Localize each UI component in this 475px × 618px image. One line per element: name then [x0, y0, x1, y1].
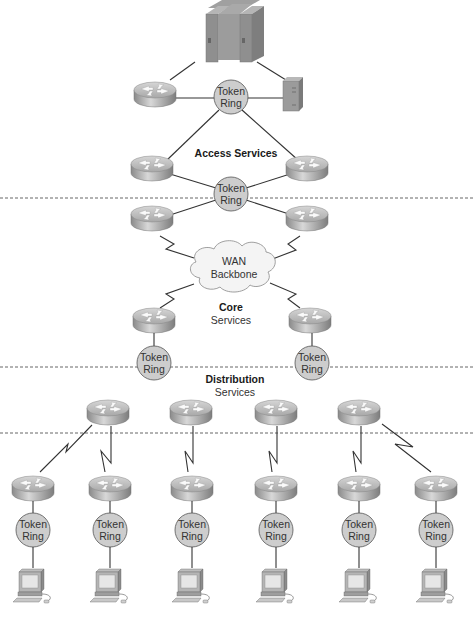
serial-links-distribution [40, 424, 431, 472]
router-icon [415, 476, 457, 501]
access-branch-2: Token Ring [89, 476, 131, 603]
router-icon [338, 400, 380, 425]
router-icon [131, 156, 173, 181]
svg-text:Token: Token [345, 518, 373, 530]
access-services-label: Access Services [195, 147, 278, 159]
svg-text:Token: Token [96, 518, 124, 530]
workstation-icon [90, 569, 127, 603]
svg-text:Token: Token [140, 351, 168, 363]
router-icon [131, 206, 173, 231]
token-ring-top: Token Ring [214, 80, 248, 114]
svg-text:Ring: Ring [143, 363, 165, 375]
router-icon [89, 476, 131, 501]
access-branch-4: Token Ring [255, 476, 297, 603]
workstation-icon [13, 569, 50, 603]
router-icon [255, 400, 297, 425]
access-branch-1: Token Ring [12, 476, 54, 603]
svg-text:Ring: Ring [99, 530, 121, 542]
router-icon [338, 476, 380, 501]
svg-text:Backbone: Backbone [211, 268, 258, 280]
workstation-icon [339, 569, 376, 603]
svg-text:Ring: Ring [348, 530, 370, 542]
mainframe-icon [206, 0, 264, 62]
token-ring-middle: Token Ring [214, 177, 248, 211]
svg-text:Token: Token [217, 182, 245, 194]
router-icon [170, 400, 212, 425]
cloud-icon: WAN Backbone [190, 241, 275, 292]
svg-text:Token: Token [422, 518, 450, 530]
network-diagram: Token Ring Access Services Token Ring WA… [0, 0, 475, 618]
svg-text:Ring: Ring [265, 530, 287, 542]
router-icon [255, 476, 297, 501]
distribution-label: Distribution [206, 373, 265, 385]
svg-text:WAN: WAN [222, 255, 246, 267]
token-ring-core-left: Token Ring [137, 346, 171, 380]
router-icon [133, 308, 175, 333]
router-icon [286, 206, 328, 231]
svg-text:Token: Token [178, 518, 206, 530]
router-icon [289, 308, 331, 333]
svg-text:Ring: Ring [220, 97, 242, 109]
router-icon [286, 156, 328, 181]
server-icon [283, 77, 303, 111]
distribution-sublabel: Services [215, 386, 255, 398]
svg-text:Token: Token [298, 351, 326, 363]
core-sublabel: Services [211, 314, 251, 326]
workstation-icon [256, 569, 293, 603]
core-label: Core [219, 301, 243, 313]
svg-text:Token: Token [19, 518, 47, 530]
access-branch-3: Token Ring [171, 476, 213, 603]
svg-text:Ring: Ring [181, 530, 203, 542]
svg-text:Ring: Ring [301, 363, 323, 375]
router-icon [134, 82, 176, 107]
svg-text:Ring: Ring [220, 194, 242, 206]
svg-text:Ring: Ring [425, 530, 447, 542]
workstation-icon [172, 569, 209, 603]
router-icon [87, 400, 129, 425]
router-icon [171, 476, 213, 501]
svg-text:Token: Token [262, 518, 290, 530]
access-branch-5: Token Ring [338, 476, 380, 603]
workstation-icon [416, 569, 453, 603]
router-icon [12, 476, 54, 501]
svg-text:Ring: Ring [22, 530, 44, 542]
token-ring-core-right: Token Ring [295, 346, 329, 380]
access-branch-6: Token Ring [415, 476, 457, 603]
svg-text:Token: Token [217, 85, 245, 97]
